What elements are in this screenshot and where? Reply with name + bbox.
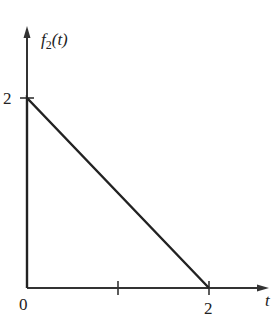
x-tick-label-0: 0 <box>19 295 28 314</box>
y-tick-label-2: 2 <box>3 89 12 108</box>
plot-figure: f2(t) 2 0 2 t <box>0 0 271 322</box>
x-tick-label-2: 2 <box>204 299 213 318</box>
signal-f2 <box>27 98 209 288</box>
y-axis-label: f2(t) <box>41 30 68 52</box>
y-axis-arrow-icon <box>24 26 31 38</box>
x-axis-label: t <box>265 291 271 310</box>
